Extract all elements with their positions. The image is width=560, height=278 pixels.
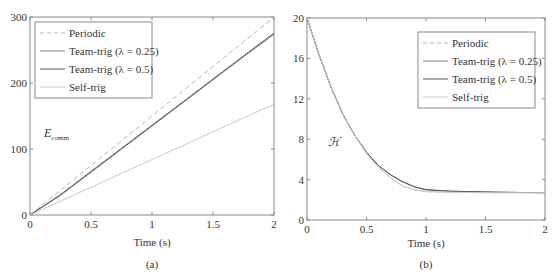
legend-label-periodic: Periodic [69, 27, 106, 39]
legend-label-team-025: Team-trig (λ = 0.25) [452, 55, 542, 68]
panel-b-hamiltonian-chart: 00.511.52048121620 Periodic Team-trig (λ… [293, 12, 548, 271]
panel-a-energy-chart: 00.511.520100200300 Periodic Team-trig (… [11, 11, 277, 271]
x-tick-label: 0.5 [84, 218, 98, 230]
y-axis-label-a: Ecomm [43, 126, 69, 142]
y-tick-label: 100 [11, 143, 28, 155]
y-tick-label: 12 [293, 93, 304, 105]
x-tick-label: 0 [304, 223, 310, 235]
figure: 00.511.520100200300 Periodic Team-trig (… [0, 0, 560, 278]
x-tick-label: 2 [271, 218, 277, 230]
caption-b: (b) [420, 258, 433, 271]
legend-b: Periodic Team-trig (λ = 0.25) Team-trig … [418, 32, 542, 108]
y-tick-label: 20 [293, 12, 305, 24]
legend-a: Periodic Team-trig (λ = 0.25) Team-trig … [35, 22, 159, 98]
y-tick-label: 4 [299, 174, 305, 186]
y-tick-label: 0 [22, 209, 28, 221]
x-axis-label-a: Time (s) [133, 236, 171, 249]
legend-label-team-05: Team-trig (λ = 0.5) [69, 63, 153, 76]
y-label-sub: comm [51, 134, 69, 142]
x-tick-label: 1 [423, 223, 429, 235]
series-line [30, 104, 274, 215]
y-tick-label: 200 [11, 77, 28, 89]
y-tick-label: 16 [293, 52, 305, 64]
legend-label-periodic: Periodic [452, 37, 489, 49]
x-axis-label-b: Time (s) [407, 237, 445, 250]
y-tick-label: 8 [299, 133, 305, 145]
legend-label-team-025: Team-trig (λ = 0.25) [69, 45, 159, 58]
x-tick-label: 2 [542, 223, 548, 235]
x-tick-label: 1.5 [479, 223, 493, 235]
x-tick-label: 0.5 [360, 223, 374, 235]
y-axis-label-b: ℋ [328, 135, 342, 149]
x-tick-label: 0 [27, 218, 33, 230]
legend-label-self-trig: Self-trig [69, 81, 106, 93]
x-tick-label: 1 [149, 218, 155, 230]
x-tick-label: 1.5 [206, 218, 220, 230]
legend-label-team-05: Team-trig (λ = 0.5) [452, 73, 536, 86]
y-tick-label: 0 [299, 214, 305, 226]
caption-a: (a) [146, 258, 159, 271]
y-tick-label: 300 [11, 11, 28, 23]
legend-label-self-trig: Self-trig [452, 91, 489, 103]
